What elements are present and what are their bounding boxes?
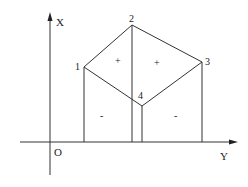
diagram-canvas: X Y O 1 2 3 4 + + - - xyxy=(0,0,248,187)
point-label-3: 3 xyxy=(205,56,210,67)
point-label-4: 4 xyxy=(138,90,143,101)
horizontal-arrow-icon xyxy=(229,140,238,145)
sign-plus-left: + xyxy=(115,55,121,66)
lower-edge xyxy=(84,62,202,106)
horizontal-axis-label: Y xyxy=(220,150,228,162)
origin-label: O xyxy=(54,146,62,158)
vertical-axis-label: X xyxy=(56,16,64,28)
vertical-arrow-icon xyxy=(48,12,53,21)
point-label-1: 1 xyxy=(75,61,80,72)
upper-edge xyxy=(84,25,202,67)
point-label-2: 2 xyxy=(129,13,134,24)
sign-plus-right: + xyxy=(154,57,160,68)
sign-minus-left: - xyxy=(100,110,103,121)
sign-minus-right: - xyxy=(174,110,177,121)
